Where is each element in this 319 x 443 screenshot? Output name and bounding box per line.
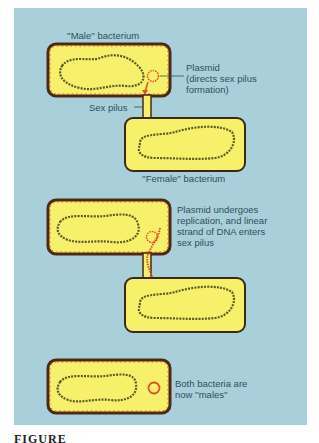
male-bacterium-stage1 <box>48 44 170 96</box>
sex-pilus-stage2 <box>143 253 153 280</box>
sex-pilus-stage1 <box>143 95 151 120</box>
male-bacterium-label: ''Male'' bacterium <box>67 30 139 41</box>
female-bacterium-label: ''Female'' bacterium <box>142 173 225 184</box>
conjugation-diagram <box>0 0 319 443</box>
stage2-description: Plasmid undergoes replication, and linea… <box>177 204 267 248</box>
figure-caption: FIGURE <box>14 432 67 443</box>
male-bacterium-stage3 <box>48 360 170 413</box>
plasmid-label: Plasmid (directs sex pilus formation) <box>186 62 257 95</box>
male-bacterium-stage2 <box>48 200 170 256</box>
stage3-description: Both bacteria are now ''males'' <box>175 378 247 400</box>
female-bacterium-stage1 <box>125 118 245 171</box>
female-bacterium-stage2 <box>125 278 245 332</box>
sex-pilus-label: Sex pilus <box>89 102 128 113</box>
